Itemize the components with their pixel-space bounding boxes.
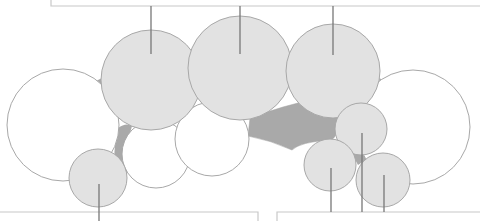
- bottom-left-box: [0, 212, 258, 221]
- circle-packing-diagram: [0, 0, 480, 221]
- bottom-left-small-gray-circle: [69, 149, 127, 207]
- circles-group: [7, 16, 470, 207]
- right-small-gray-3-circle: [356, 153, 410, 207]
- right-small-gray-2-circle: [304, 139, 356, 191]
- bottom-label-boxes: [0, 212, 480, 221]
- top-label-box: [51, 0, 480, 6]
- bottom-right-box: [277, 212, 480, 221]
